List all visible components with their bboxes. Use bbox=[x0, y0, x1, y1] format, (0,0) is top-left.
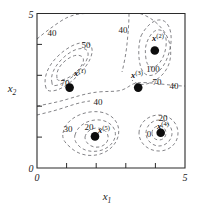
contour-label-7: 40 bbox=[170, 81, 180, 91]
data-point-label-x1: x(1) bbox=[73, 67, 86, 79]
data-point-label-x2: x(2) bbox=[151, 32, 164, 44]
contour-plot-figure: 40 50 70 40 100 70 40 40 30 20 20 0 x(1)… bbox=[0, 0, 198, 207]
contour-path-40-horizontal-main bbox=[37, 83, 185, 106]
data-point-marker-x2 bbox=[151, 46, 160, 55]
x-axis-min-label: 0 bbox=[35, 172, 40, 183]
y-axis-ticks bbox=[37, 44, 42, 137]
contour-path-40-lower-left-tail bbox=[37, 101, 90, 115]
contour-path-40-vertical-mid bbox=[122, 14, 129, 73]
x-axis-ticks bbox=[67, 163, 156, 168]
y-axis-max-label: 5 bbox=[29, 9, 34, 20]
contour-label-5: 70 bbox=[153, 77, 163, 87]
y-axis-title: x2 bbox=[7, 82, 17, 97]
data-point-marker-x1 bbox=[65, 83, 74, 92]
contour-label-6: 40 bbox=[94, 97, 104, 107]
contour-label-3: 40 bbox=[119, 25, 129, 35]
x-axis-max-label: 5 bbox=[183, 172, 188, 183]
contour-label-9: 20 bbox=[85, 122, 95, 132]
data-point-label-x3: x(3) bbox=[130, 69, 143, 81]
contour-label-1: 50 bbox=[82, 40, 92, 50]
plot-canvas: 40 50 70 40 100 70 40 40 30 20 20 0 x(1)… bbox=[0, 0, 198, 207]
contour-label-4: 100 bbox=[146, 64, 160, 74]
y-axis-min-label: 0 bbox=[29, 163, 34, 174]
contour-label-8: 30 bbox=[64, 124, 74, 134]
contour-label-11: 0 bbox=[147, 129, 152, 139]
x-axis-title: x1 bbox=[102, 190, 112, 205]
data-point-label-x5: x(5) bbox=[97, 124, 110, 136]
contour-path-40-upper-left bbox=[37, 14, 86, 40]
data-point-marker-x3 bbox=[134, 83, 143, 92]
contour-label-0: 40 bbox=[48, 28, 58, 38]
